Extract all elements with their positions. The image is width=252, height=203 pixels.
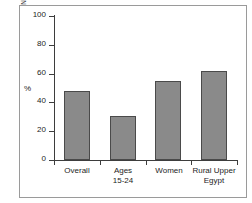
x-axis-label: Ages 15-24 — [100, 166, 146, 185]
x-tick-mark — [100, 160, 101, 165]
y-tick-label: 40 — [14, 97, 46, 107]
y-tick-mark — [49, 45, 54, 46]
y-tick-label: 100 — [14, 11, 46, 21]
y-tick-mark — [49, 74, 54, 75]
chart-figure: Source: Human Development Report 1998/9 … — [0, 0, 252, 203]
x-tick-mark — [146, 160, 147, 165]
y-tick-label: 20 — [14, 126, 46, 136]
x-tick-mark — [237, 160, 238, 165]
y-tick-label-text: 0 — [20, 155, 46, 163]
y-tick-mark — [49, 16, 54, 17]
x-axis-label: Overall — [54, 166, 100, 176]
y-tick-label: 80 — [14, 40, 46, 50]
y-tick-label-text: 100 — [20, 11, 46, 19]
x-axis-label: Women — [146, 166, 192, 176]
y-axis-line — [54, 15, 55, 161]
y-axis-title: % — [24, 84, 31, 93]
y-tick-label-text: 20 — [20, 126, 46, 134]
y-tick-label-text: 80 — [20, 40, 46, 48]
bar — [201, 71, 227, 160]
bar — [155, 81, 181, 160]
y-tick-label: 0 — [14, 155, 46, 165]
x-tick-mark — [54, 160, 55, 165]
y-tick-mark — [49, 102, 54, 103]
bar — [64, 91, 90, 160]
x-tick-mark — [191, 160, 192, 165]
y-tick-mark — [49, 131, 54, 132]
y-tick-label-text: 40 — [20, 97, 46, 105]
y-tick-label-text: 60 — [20, 69, 46, 77]
bar — [110, 116, 136, 160]
x-axis-label: Rural Upper Egypt — [191, 166, 237, 185]
y-tick-label: 60 — [14, 69, 46, 79]
